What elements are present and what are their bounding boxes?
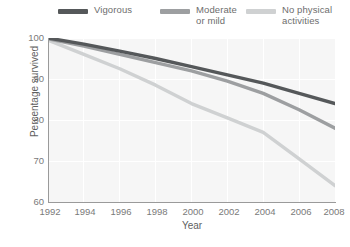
series-line-no-physical-activities <box>48 40 335 186</box>
chart-curves <box>48 38 335 202</box>
x-tick-label: 1998 <box>137 206 177 217</box>
legend-swatch-icon-moderate-or-mild <box>160 9 190 14</box>
x-axis-line <box>48 202 336 203</box>
legend-swatch-icon-no-physical-activities <box>246 9 276 14</box>
y-axis-label: Percentage survived <box>29 22 40 162</box>
plot-area <box>48 38 335 202</box>
y-axis-line <box>48 38 49 203</box>
legend-item-vigorous: Vigorous <box>58 4 132 15</box>
legend-swatch-icon-vigorous <box>58 9 88 14</box>
legend-item-no-physical-activities: No physical activities <box>246 4 332 26</box>
x-tick-label: 1992 <box>30 206 70 217</box>
x-tick-label: 2002 <box>209 206 249 217</box>
series-line-moderate-or-mild <box>48 39 335 128</box>
legend-label-no-physical-activities: No physical activities <box>282 4 332 26</box>
x-tick-label: 1994 <box>65 206 105 217</box>
legend-label-vigorous: Vigorous <box>94 4 132 15</box>
chart-legend: Vigorous Moderate or mild No physical ac… <box>50 4 350 34</box>
x-tick-label: 2000 <box>173 206 213 217</box>
figure-chart-survival: Vigorous Moderate or mild No physical ac… <box>0 0 350 247</box>
x-axis-label: Year <box>48 220 336 231</box>
legend-label-moderate-or-mild: Moderate or mild <box>196 4 237 26</box>
x-tick-label: 2004 <box>245 206 285 217</box>
x-tick-label: 1996 <box>101 206 141 217</box>
legend-item-moderate-or-mild: Moderate or mild <box>160 4 237 26</box>
x-tick-label: 2008 <box>314 206 350 217</box>
